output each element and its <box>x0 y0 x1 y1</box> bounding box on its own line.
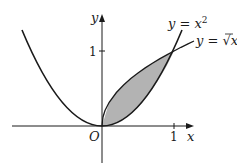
x-axis-label: x <box>187 129 195 144</box>
shaded-region <box>102 51 174 126</box>
origin-label: O <box>89 129 100 144</box>
x-tick-label-1: 1 <box>170 130 178 144</box>
curve-label-sqrt-x: y = √x <box>195 33 237 48</box>
y-axis-label: y <box>90 10 99 25</box>
curve-label-x-squared: y = x2 <box>167 15 208 31</box>
y-axis-arrow-icon <box>99 14 105 22</box>
y-tick-label-1: 1 <box>89 45 97 59</box>
plot: y x O 1 1 y = x2 y = √x <box>0 0 237 168</box>
